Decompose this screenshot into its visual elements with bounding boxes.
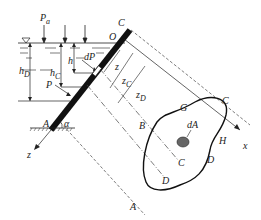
label-zd: zD xyxy=(136,90,146,103)
label-dp: dP xyxy=(84,52,95,62)
label-z-axis: z xyxy=(27,150,31,160)
hydrostatic-diagram: Pa C O h dP hC hD z zC zD P A α z G C B … xyxy=(0,0,261,220)
label-z: z xyxy=(115,62,119,72)
label-d-right: D xyxy=(207,155,214,165)
element-dA xyxy=(177,137,189,147)
label-pa: Pa xyxy=(40,13,50,26)
x-axis xyxy=(124,39,240,130)
label-d-mid: D xyxy=(162,176,169,186)
label-o: O xyxy=(109,32,116,42)
water-hatching xyxy=(20,48,110,70)
label-c-right: C xyxy=(222,96,229,106)
label-alpha: α xyxy=(64,119,69,129)
inclined-plate xyxy=(51,30,130,130)
label-h: h xyxy=(68,56,73,66)
label-b: B xyxy=(139,121,145,131)
label-c-top: C xyxy=(118,18,125,28)
label-x-axis: x xyxy=(243,141,247,151)
label-a-left: A xyxy=(43,119,49,129)
label-h-point: H xyxy=(219,136,226,146)
label-g: G xyxy=(180,103,187,113)
water-level-icon xyxy=(22,38,30,43)
diagram-canvas xyxy=(0,0,261,220)
label-p: P xyxy=(46,80,52,90)
label-zc: zC xyxy=(122,76,131,89)
atmospheric-pressure-arrows xyxy=(42,25,87,43)
label-c-mid: C xyxy=(178,158,185,168)
label-hd: hD xyxy=(19,66,30,79)
label-da: dA xyxy=(187,120,198,130)
label-a-bottom: A xyxy=(130,202,136,212)
